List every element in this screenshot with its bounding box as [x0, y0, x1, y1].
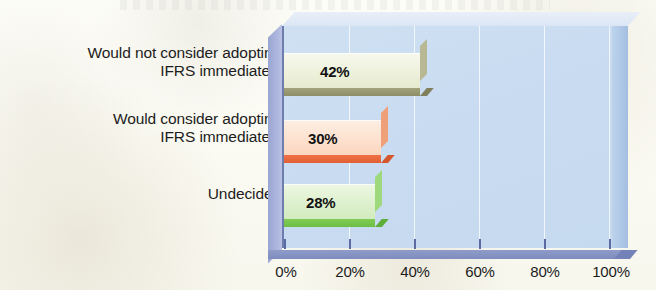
bar-0-side: [420, 39, 427, 81]
scan-artifact-top: [120, 0, 550, 10]
bar-1-shadow: [284, 155, 381, 163]
bar-0-shadow: [284, 88, 420, 96]
plot-base: [268, 250, 626, 259]
tick-label-0: 0%: [275, 263, 296, 280]
bar-0[interactable]: 42%: [284, 53, 420, 88]
bar-2-side: [375, 170, 382, 212]
bar-0-value: 42%: [320, 62, 349, 79]
bar-2-shadow-cap: [375, 219, 389, 227]
tick-label-60: 60%: [465, 263, 494, 280]
gridline-80: [544, 26, 545, 248]
tick-label-100: 100%: [592, 263, 630, 280]
chart-page: Would not consider adopting IFRS immedia…: [0, 0, 656, 290]
plot-area: 0% 20% 40% 60% 80% 100% 42% 30%: [282, 26, 628, 248]
bar-1-value: 30%: [308, 129, 337, 146]
bar-1-side: [381, 106, 388, 148]
bar-2[interactable]: 28%: [284, 184, 375, 219]
tick-100: [609, 239, 611, 249]
bar-0-shadow-cap: [420, 88, 434, 96]
tick-label-40: 40%: [400, 263, 429, 280]
tick-0: [284, 239, 286, 249]
tick-80: [544, 239, 546, 249]
tick-60: [479, 239, 481, 249]
category-label-0: Would not consider adopting IFRS immedia…: [88, 44, 281, 80]
bar-2-value: 28%: [306, 193, 335, 210]
category-label-1: Would consider adopting IFRS immediately: [113, 110, 281, 146]
plot-top-face: [282, 12, 641, 26]
tick-label-20: 20%: [335, 263, 364, 280]
bar-1[interactable]: 30%: [284, 120, 381, 155]
bar-1-shadow-cap: [381, 155, 395, 163]
gridline-100: [609, 26, 610, 248]
plot-left-wall: [268, 24, 282, 264]
tick-20: [349, 239, 351, 249]
tick-label-80: 80%: [530, 263, 559, 280]
bar-2-shadow: [284, 219, 375, 227]
gridline-60: [479, 26, 480, 248]
bar-0-face: [284, 53, 420, 88]
tick-40: [414, 239, 416, 249]
plot-frame: 0% 20% 40% 60% 80% 100% 42% 30%: [268, 12, 632, 250]
plot-right-wall: [612, 26, 628, 248]
